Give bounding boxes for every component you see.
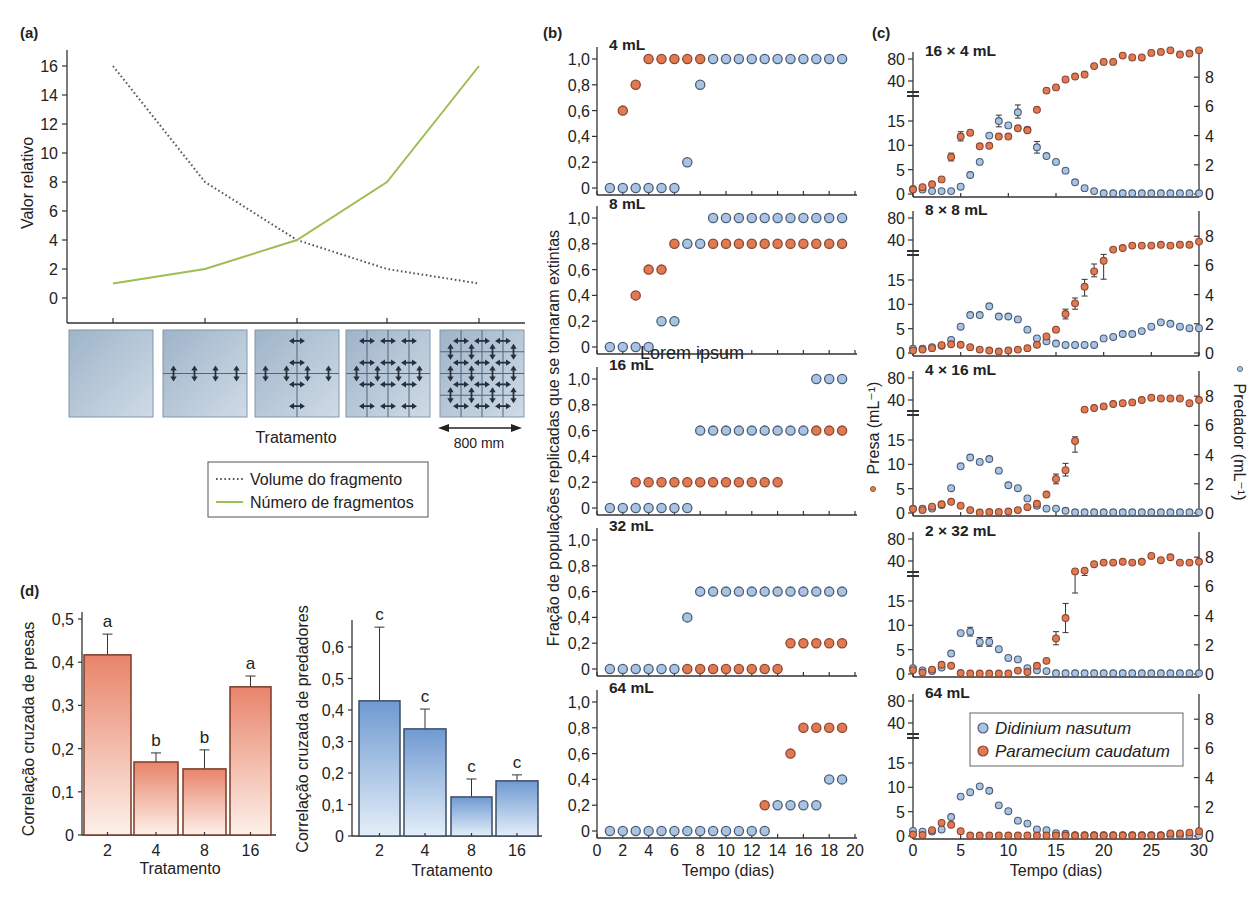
y-tick-label: 1,0	[568, 210, 590, 227]
didinium-point	[670, 317, 679, 326]
left-y-tick-label: 0	[896, 828, 905, 845]
didinium-point	[1014, 109, 1021, 116]
left-y-tick-label: 80	[887, 693, 905, 710]
didinium-point	[1129, 509, 1136, 516]
paramecium-point	[1167, 47, 1174, 54]
y-tick-label: 6	[49, 203, 58, 220]
didinium-point	[618, 664, 627, 673]
left-y-tick-label: 5	[896, 481, 905, 498]
didinium-point	[1043, 505, 1050, 512]
didinium-point	[721, 213, 730, 222]
didinium-point	[967, 628, 974, 635]
paramecium-point	[1157, 557, 1164, 564]
panel-c-subplot-4-16-ml: 0510154080024684 × 16 mL	[887, 361, 1214, 522]
x-tick-label: 4	[421, 842, 430, 859]
paramecium-point	[910, 186, 917, 193]
didinium-point	[825, 213, 834, 222]
didinium-point	[825, 587, 834, 596]
x-tick-label: 4	[644, 842, 653, 859]
didinium-point	[825, 775, 834, 784]
didinium-point	[976, 158, 983, 165]
didinium-point	[1034, 144, 1041, 151]
didinium-point	[1138, 190, 1145, 197]
didinium-point	[995, 118, 1002, 125]
y-tick-label: 0	[581, 339, 590, 356]
paramecium-point	[1138, 242, 1145, 249]
didinium-point	[967, 789, 974, 796]
didinium-point	[986, 456, 993, 463]
didinium-point	[721, 826, 730, 835]
didinium-point	[1081, 185, 1088, 192]
y-tick-label: 0,6	[568, 746, 590, 763]
didinium-point	[631, 183, 640, 192]
y-tick-label: 0,4	[568, 287, 590, 304]
paramecium-point	[825, 639, 834, 648]
paramecium-point	[938, 661, 945, 668]
paramecium-point	[709, 239, 718, 248]
didinium-point	[957, 630, 964, 637]
paramecium-point	[1014, 346, 1021, 353]
paramecium-point	[910, 347, 917, 354]
y-tick-label: 0,4	[568, 128, 590, 145]
left-y-tick-label: 5	[896, 804, 905, 821]
y-tick-label: 0,5	[322, 671, 344, 688]
didinium-point	[1043, 153, 1050, 160]
paramecium-point	[799, 239, 808, 248]
x-tick-label: 30	[1190, 842, 1208, 859]
didinium-point	[967, 454, 974, 461]
paramecium-point	[721, 664, 730, 673]
x-tick-label: 18	[820, 842, 838, 859]
prey-dot-icon	[870, 486, 875, 491]
x-tick-label: 2	[103, 842, 112, 859]
paramecium-point	[957, 133, 964, 140]
didinium-point	[1005, 808, 1012, 815]
didinium-point	[1081, 670, 1088, 677]
paramecium-point	[1005, 508, 1012, 515]
paramecium-point	[1196, 397, 1203, 404]
right-y-tick-label: 4	[1205, 128, 1214, 145]
paramecium-point	[1053, 84, 1060, 91]
didinium-point	[1138, 509, 1145, 516]
paramecium-point	[773, 664, 782, 673]
didinium-point	[976, 312, 983, 319]
right-y-tick-label: 6	[1205, 578, 1214, 595]
paramecium-point	[967, 670, 974, 677]
y-tick-label: 0,6	[568, 584, 590, 601]
didinium-point	[812, 213, 821, 222]
didinium-point	[1005, 313, 1012, 320]
didinium-point	[670, 183, 679, 192]
left-y-tick-label: 40	[887, 553, 905, 570]
y-tick-label: 4	[49, 232, 58, 249]
significance-letter: c	[513, 753, 522, 772]
paramecium-point	[1081, 406, 1088, 413]
treatment-image-4-fragments	[255, 330, 339, 417]
didinium-point	[799, 54, 808, 63]
y-tick-label: 0,1	[52, 784, 74, 801]
paramecium-point	[929, 181, 936, 188]
paramecium-point	[760, 478, 769, 487]
y-tick-label: 1,0	[568, 694, 590, 711]
didinium-point	[812, 374, 821, 383]
right-y-tick-label: 8	[1205, 69, 1214, 86]
didinium-point	[1053, 340, 1060, 347]
paramecium-point	[1005, 347, 1012, 354]
bar	[84, 655, 131, 835]
x-tick-label: 16	[795, 842, 813, 859]
panel-d-predator-bars: 00,10,20,30,40,50,6c2c4c8c16	[322, 605, 542, 859]
didinium-point	[696, 80, 705, 89]
didinium-point	[1062, 507, 1069, 514]
didinium-point	[1091, 670, 1098, 677]
paramecium-point	[1177, 830, 1184, 837]
paramecium-point	[1024, 127, 1031, 134]
didinium-point	[948, 188, 955, 195]
panel-b-subplot-4-ml: 00,20,40,60,81,04 mL	[568, 36, 857, 197]
paramecium-point	[929, 666, 936, 673]
didinium-point	[1005, 655, 1012, 662]
paramecium-point	[948, 498, 955, 505]
paramecium-point	[683, 664, 692, 673]
paramecium-point	[957, 828, 964, 835]
didinium-point	[618, 183, 627, 192]
panel-d-prey-bars: 00,10,20,30,40,5a2b4b8a16	[52, 611, 276, 859]
y-tick-label: 0	[581, 180, 590, 197]
didinium-point	[683, 239, 692, 248]
